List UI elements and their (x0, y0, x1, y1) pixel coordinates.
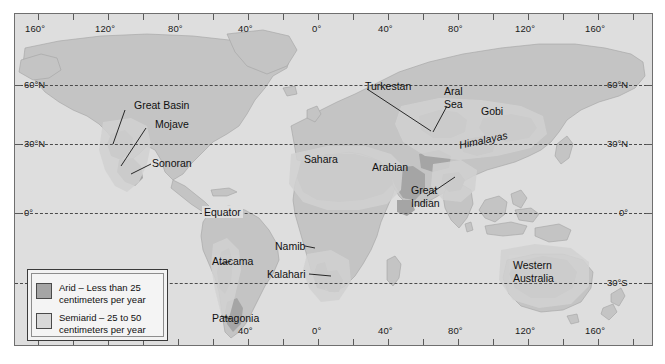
legend-semiarid-line1: Semiarid – 25 to 50 (59, 312, 141, 323)
legend-arid-line2: centimeters per year (59, 294, 146, 305)
great-indian-line2: Indian (411, 197, 440, 209)
legend-swatch-semiarid (36, 313, 52, 329)
map-figure: Equator (0, 0, 665, 364)
legend-item-arid: Arid – Less than 25 centimeters per year (36, 282, 146, 305)
leader-sonoran (131, 164, 151, 174)
place-label-great-basin: Great Basin (134, 99, 189, 111)
place-label-gobi: Gobi (481, 105, 503, 117)
aral-sea-line1: Aral (444, 85, 463, 97)
legend-swatch-arid (36, 283, 52, 299)
place-label-sahara: Sahara (304, 153, 338, 165)
great-indian-line1: Great (411, 184, 437, 196)
aral-sea-line2: Sea (444, 98, 463, 110)
place-label-atacama: Atacama (212, 255, 253, 267)
place-label-western-australia: Western Australia (513, 259, 554, 284)
place-label-aral-sea: Aral Sea (444, 85, 463, 110)
legend-label-semiarid: Semiarid – 25 to 50 centimeters per year (59, 312, 146, 335)
map-legend: Arid – Less than 25 centimeters per year… (27, 269, 168, 341)
leader-kalahari (309, 274, 331, 276)
legend-label-arid: Arid – Less than 25 centimeters per year (59, 282, 146, 305)
place-label-arabian: Arabian (372, 161, 408, 173)
leader-mojave (121, 128, 146, 166)
place-label-sonoran: Sonoran (152, 157, 192, 169)
leader-great-basin (113, 110, 125, 144)
legend-semiarid-line2: centimeters per year (59, 324, 146, 335)
leader-namib (305, 246, 315, 248)
leader-turkestan (367, 89, 431, 131)
place-label-namib: Namib (275, 240, 305, 252)
place-label-kalahari: Kalahari (267, 268, 306, 280)
place-label-mojave: Mojave (155, 118, 189, 130)
place-label-great-indian: Great Indian (411, 184, 440, 209)
world-map: Equator (14, 13, 653, 346)
legend-arid-line1: Arid – Less than 25 (59, 282, 141, 293)
place-label-turkestan: Turkestan (365, 80, 411, 92)
legend-item-semiarid: Semiarid – 25 to 50 centimeters per year (36, 312, 146, 335)
western-australia-line1: Western (513, 259, 552, 271)
place-label-patagonia: Patagonia (212, 312, 259, 324)
western-australia-line2: Australia (513, 272, 554, 284)
